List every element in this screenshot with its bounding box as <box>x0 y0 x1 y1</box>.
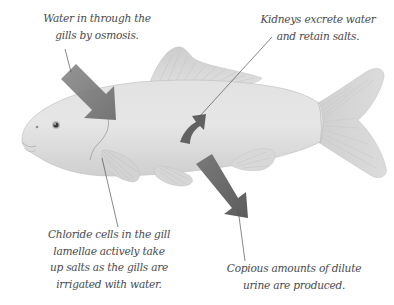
label-kidneys: Kidneys excrete water and retain salts. <box>258 11 378 44</box>
label-urine-line-1: Copious amounts of dilute <box>209 260 379 277</box>
label-kidneys-line-1: Kidneys excrete water <box>258 11 378 28</box>
fish-osmoregulation-diagram: Water in through the gills by osmosis. K… <box>0 0 394 305</box>
fish-eye <box>52 121 60 129</box>
label-chloride-line-2: lamellae actively take <box>44 243 174 260</box>
label-chloride-cells: Chloride cells in the gill lamellae acti… <box>44 226 174 292</box>
label-water-in-line-2: gills by osmosis. <box>37 27 157 44</box>
label-chloride-line-1: Chloride cells in the gill <box>44 226 174 243</box>
label-chloride-line-3: up salts as the gills are <box>44 259 174 276</box>
caudal-fin <box>318 69 386 178</box>
label-chloride-line-4: irrigated with water. <box>44 276 174 293</box>
label-water-in: Water in through the gills by osmosis. <box>37 10 157 43</box>
label-urine: Copious amounts of dilute urine are prod… <box>209 260 379 293</box>
label-urine-line-2: urine are produced. <box>209 277 379 294</box>
dorsal-fin <box>150 47 262 85</box>
label-water-in-line-1: Water in through the <box>37 10 157 27</box>
label-kidneys-line-2: and retain salts. <box>258 28 378 45</box>
fish-body <box>22 80 323 176</box>
leader-water-in <box>65 49 71 72</box>
